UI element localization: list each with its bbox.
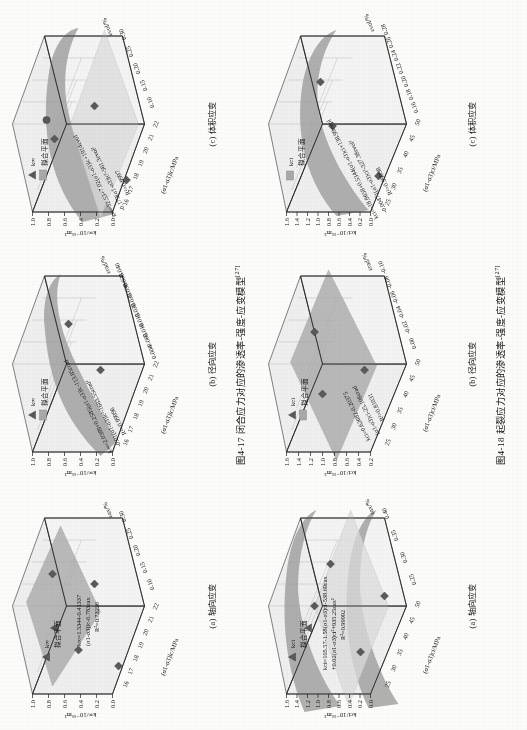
legend-marker-label: k∞ — [42, 640, 49, 648]
y-tick: 0.30 — [397, 551, 408, 564]
x-tick: 18 — [130, 654, 139, 662]
figure-4-17: 0.0 0.2 0.4 0.6 0.8 1.0 k∞/10⁻¹⁶m² 16 17 — [4, 0, 254, 730]
legend-surface-label: 拟合平面 — [298, 620, 307, 648]
z-tick: 0.8 — [44, 218, 51, 226]
equation-line: R²=0.73236 — [92, 602, 99, 632]
y-tick: 0.10 — [144, 96, 155, 109]
surface-plot-4-17-b: 0.0 0.2 0.4 0.6 0.8 1.0 k∞/10⁻¹⁶m² 16 17… — [4, 246, 202, 482]
z-tick: 0.4 — [76, 699, 83, 708]
z-tick: 0.2 — [356, 700, 363, 708]
figure-caption-text: 图4-18 起裂应力对应的渗透率-强度-应变模型 — [495, 277, 505, 465]
legend-surface-swatch — [39, 170, 46, 180]
figure-caption-reference: [27] — [233, 265, 240, 277]
z-tick: 0.6 — [60, 218, 67, 226]
z-tick: 0.4 — [354, 457, 361, 466]
surface-plot-4-18-a: 0.0 0.2 0.4 0.6 0.8 1.0 1.2 1.4 1.6 kci/… — [264, 488, 462, 724]
z-tick: 0.4 — [345, 217, 352, 226]
x-tick: 50 — [412, 358, 421, 366]
equation-line: (σ1-σ3)lc-6.783εax — [83, 596, 91, 646]
z-tick: 0.8 — [44, 700, 51, 708]
z-axis-label: k∞/10⁻¹⁶m² — [64, 230, 96, 237]
y-tick: 0.18 — [403, 88, 414, 101]
z-tick: 0.6 — [60, 700, 67, 708]
y-tick: 0.28 — [378, 23, 389, 36]
z-tick: 1.0 — [314, 218, 321, 226]
z-axis-label: kci/10⁻¹⁶m² — [324, 470, 356, 477]
z-tick: 0.2 — [366, 458, 373, 466]
z-tick: 1.4 — [293, 699, 300, 708]
z-tick: 0.2 — [356, 218, 363, 226]
panel-caption-4-18-b: (b) 径向应变 — [464, 246, 476, 482]
equation-line: kci=105.57-1.58(σ1-σ3)ci-538.69εax — [320, 576, 328, 670]
x-tick: 22 — [150, 602, 159, 610]
z-tick: 0.0 — [108, 458, 115, 466]
legend-surface-label: 拟合平面 — [52, 620, 61, 648]
z-tick: 1.0 — [28, 458, 35, 466]
y-tick: 0.00 — [406, 337, 417, 350]
legend-surface-swatch — [299, 410, 306, 420]
x-tick: 35 — [394, 406, 403, 414]
x-tick: 20 — [140, 628, 149, 636]
y-tick: 0.10 — [144, 578, 155, 591]
figure-caption-4-18: 图4-18 起裂应力对应的渗透率-强度-应变模型[27] — [492, 0, 506, 730]
x-axis-label: (σ1-σ3)lc/MPa — [158, 155, 180, 195]
x-tick: 22 — [150, 360, 159, 368]
z-tick: 0.4 — [76, 217, 83, 226]
chart-panel-4-17-b: 0.0 0.2 0.4 0.6 0.8 1.0 k∞/10⁻¹⁶m² 16 17… — [4, 246, 216, 482]
surface-plot-4-17-c: 0.0 0.2 0.4 0.6 0.8 1.0 k∞/10⁻¹⁶m² 16 17… — [4, 6, 202, 242]
x-tick: 40 — [400, 390, 409, 398]
figure-caption-4-17: 图4-17 闭合应力对应的渗透率-强度-应变模型[27] — [232, 0, 246, 730]
x-tick: 40 — [400, 632, 409, 640]
surface-plot-4-18-b: 0.2 0.4 0.6 0.8 1.0 1.2 1.4 1.6 kci/10⁻¹… — [264, 246, 462, 482]
y-axis-label: εvol/% — [100, 17, 113, 37]
legend-surface-label: 拟合平面 — [39, 378, 48, 406]
x-tick: 45 — [406, 616, 415, 624]
legend-marker-label: kci — [288, 398, 295, 406]
z-tick: 1.2 — [306, 458, 313, 466]
x-tick: 45 — [406, 134, 415, 142]
legend-surface-label: 拟合平面 — [299, 378, 308, 406]
x-tick: 35 — [394, 648, 403, 656]
x-tick: 35 — [394, 166, 403, 174]
x-tick: 17 — [125, 424, 134, 433]
x-tick: 21 — [145, 373, 154, 381]
x-tick: 22 — [150, 120, 159, 128]
x-tick: 16 — [120, 680, 129, 688]
x-axis-label: (σ1-σ3)ci/MPa — [420, 393, 442, 433]
surface-plot-4-17-a: 0.0 0.2 0.4 0.6 0.8 1.0 k∞/10⁻¹⁶m² 16 17 — [4, 488, 202, 724]
z-tick: 0.6 — [60, 458, 67, 466]
y-axis-label: εvol/% — [362, 13, 375, 33]
figure-4-18: 0.0 0.2 0.4 0.6 0.8 1.0 1.2 1.4 1.6 kci/… — [264, 0, 519, 730]
panel-caption-4-17-c: (c) 体积应变 — [204, 6, 216, 242]
z-axis-ticks-4-18-b: 0.2 0.4 0.6 0.8 1.0 1.2 1.4 1.6 — [282, 452, 373, 466]
x-tick: 40 — [400, 150, 409, 158]
x-tick: 21 — [145, 615, 154, 623]
z-tick: 0.2 — [92, 458, 99, 466]
y-tick: 0.16 — [408, 101, 419, 114]
z-tick: 1.6 — [282, 458, 289, 466]
x-tick: 25 — [382, 438, 391, 446]
z-tick: 1.0 — [28, 218, 35, 226]
z-tick: 0.6 — [335, 700, 342, 708]
legend-marker-label: k∞ — [28, 158, 35, 166]
z-axis-label: k∞/10⁻¹⁶m² — [64, 712, 96, 719]
surface-plot-4-18-c: 0.0 0.2 0.4 0.6 0.8 1.0 1.2 1.4 1.6 kci/… — [264, 6, 462, 242]
y-tick: -0.10 — [376, 260, 387, 275]
x-tick: 45 — [406, 374, 415, 382]
z-tick: 1.2 — [303, 218, 310, 226]
z-axis-ticks-4-18-c: 0.0 0.2 0.4 0.6 0.8 1.0 1.2 1.4 1.6 — [282, 212, 373, 226]
x-tick: 19 — [135, 399, 144, 407]
y-axis-label: εax/% — [100, 501, 113, 519]
y-tick: 0.20 — [398, 75, 409, 88]
x-tick: 50 — [412, 600, 421, 608]
legend-surface-swatch — [39, 410, 46, 420]
z-tick: 0.8 — [330, 458, 337, 466]
z-tick: 0.8 — [324, 700, 331, 708]
legend-surface-label: 拟合平面 — [296, 138, 305, 166]
scanned-book-page: 0.0 0.2 0.4 0.6 0.8 1.0 k∞/10⁻¹⁶m² 16 17 — [0, 0, 527, 730]
x-tick: 18 — [130, 172, 139, 180]
z-tick: 0.8 — [324, 218, 331, 226]
x-tick: 17 — [125, 666, 134, 675]
z-tick: 1.2 — [303, 700, 310, 708]
equation-line: R²=0.99992 — [338, 610, 345, 640]
